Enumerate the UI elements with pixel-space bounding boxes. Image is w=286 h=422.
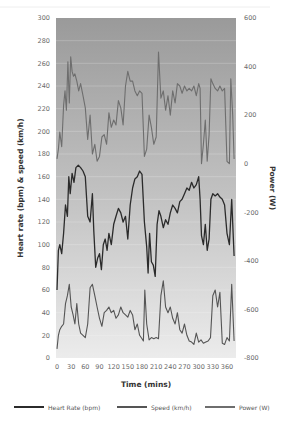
y-left-tick-label: 200 [38, 128, 50, 136]
y-left-tick-label: 240 [38, 82, 50, 90]
x-tick-label: 360 [221, 363, 233, 371]
x-tick-label: 270 [178, 363, 190, 371]
legend: Heart Rate (bpm) Speed (km/h) Power (W) [0, 400, 286, 414]
y-right-tick-label: -600 [244, 306, 259, 314]
y-right-tick-label: 0 [244, 160, 248, 168]
x-tick-label: 210 [150, 363, 162, 371]
y-left-tick-label: 120 [38, 218, 50, 226]
y-left-tick-label: 60 [42, 286, 50, 294]
legend-swatch-heart-rate [14, 406, 44, 408]
y-left-tick-label: 100 [38, 241, 50, 249]
x-tick-label: 0 [55, 363, 59, 371]
x-tick-label: 60 [81, 363, 89, 371]
y-left-tick-label: 300 [38, 14, 50, 22]
legend-label-speed: Speed (km/h) [151, 404, 192, 411]
y-right-axis: -800-600-400-2000200400600 [244, 14, 259, 362]
y-right-tick-label: 400 [244, 63, 256, 71]
y-left-tick-label: 40 [42, 309, 50, 317]
legend-swatch-power [205, 406, 235, 408]
x-tick-label: 30 [67, 363, 75, 371]
y-left-axis-title: Heart rate (bpm) & speed (km/h) [16, 118, 25, 257]
x-tick-label: 330 [207, 363, 219, 371]
x-axis-title: Time (mins) [121, 380, 171, 389]
y-right-tick-label: 200 [244, 111, 256, 119]
y-left-tick-label: 180 [38, 150, 50, 158]
x-tick-label: 300 [192, 363, 204, 371]
y-right-axis-title: Power (W) [268, 166, 277, 210]
legend-label-power: Power (W) [239, 404, 270, 411]
y-left-tick-label: 20 [42, 332, 50, 340]
y-right-tick-label: -800 [244, 354, 259, 362]
y-left-tick-label: 80 [42, 264, 50, 272]
legend-swatch-speed [117, 406, 147, 408]
y-left-tick-label: 0 [46, 354, 50, 362]
y-left-axis: 0204060801001201401601802002202402602803… [38, 14, 50, 362]
legend-item-heart-rate: Heart Rate (bpm) [14, 400, 100, 414]
y-left-tick-label: 280 [38, 37, 50, 45]
legend-item-speed: Speed (km/h) [117, 400, 192, 414]
y-right-tick-label: -200 [244, 209, 259, 217]
legend-item-power: Power (W) [205, 400, 270, 414]
y-left-tick-label: 260 [38, 60, 50, 68]
legend-label-heart-rate: Heart Rate (bpm) [48, 404, 100, 411]
y-right-tick-label: 600 [244, 14, 256, 22]
y-left-tick-label: 160 [38, 173, 50, 181]
x-tick-label: 120 [107, 363, 119, 371]
x-tick-label: 180 [136, 363, 148, 371]
chart: 0204060801001201401601802002202402602803… [0, 0, 286, 422]
y-right-tick-label: -400 [244, 257, 259, 265]
y-left-tick-label: 220 [38, 105, 50, 113]
x-axis: 0306090120150180210240270300330360 [55, 363, 233, 371]
x-tick-label: 240 [164, 363, 176, 371]
y-left-tick-label: 140 [38, 196, 50, 204]
x-tick-label: 90 [95, 363, 103, 371]
x-tick-label: 150 [122, 363, 134, 371]
